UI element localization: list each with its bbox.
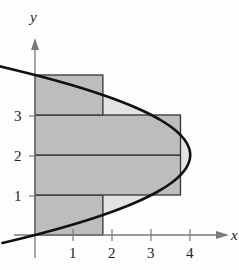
- y-tick-label-3: 3: [14, 108, 22, 124]
- y-tick-label-2: 2: [14, 148, 22, 164]
- y-ticks: [29, 116, 35, 196]
- riemann-rectangle-3: [35, 115, 181, 155]
- y-axis-label: y: [28, 9, 37, 25]
- x-tick-label-2: 2: [108, 245, 116, 261]
- plot-canvas: y x 1 2 3 4 1 2 3: [0, 0, 239, 270]
- y-axis-arrow-icon: [31, 38, 39, 50]
- riemann-rectangle-2: [35, 155, 181, 195]
- x-tick-label-4: 4: [186, 245, 194, 261]
- x-axis-label: x: [230, 227, 238, 243]
- x-tick-label-3: 3: [147, 245, 155, 261]
- riemann-sum-figure: y x 1 2 3 4 1 2 3: [0, 0, 239, 270]
- y-tick-label-1: 1: [14, 188, 22, 204]
- riemann-rectangle-4: [35, 75, 103, 115]
- x-tick-label-1: 1: [69, 245, 77, 261]
- riemann-rectangle-1: [35, 195, 103, 235]
- x-axis-arrow-icon: [216, 231, 229, 239]
